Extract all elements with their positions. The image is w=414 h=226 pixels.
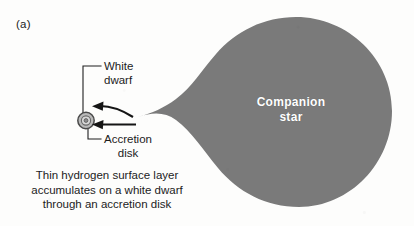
accretion-flow-arrow-icon xyxy=(92,102,133,117)
figure-panel: (a) White dwarf Accretion disk Companion… xyxy=(0,0,414,226)
leader-line xyxy=(88,128,101,139)
label-accretion-disk: Accretion disk xyxy=(104,133,152,160)
figure-caption: Thin hydrogen surface layer accumulates … xyxy=(8,168,206,212)
accretion-flow-arrow-icon xyxy=(92,120,136,129)
white-dwarf-icon xyxy=(84,119,88,123)
label-white-dwarf: White dwarf xyxy=(104,60,133,87)
label-companion-star: Companion star xyxy=(236,95,346,125)
panel-label: (a) xyxy=(16,18,31,30)
